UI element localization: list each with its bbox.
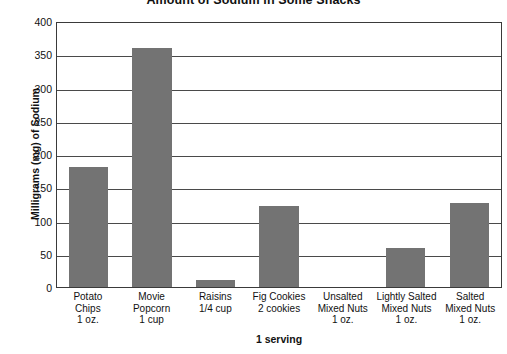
x-tick-line: Chips [57, 303, 119, 315]
x-tick-line: 2 cookies [248, 303, 310, 315]
y-axis-tick-labels: 400350300250200150100500 [0, 22, 52, 288]
sodium-bar-chart: Amount of Sodium in Some Snacks Milligra… [0, 0, 507, 354]
y-tick-label: 250 [6, 116, 52, 128]
y-tick-label: 0 [6, 282, 52, 294]
x-tick-label: SaltedMixed Nuts1 oz. [438, 291, 502, 326]
x-tick-line: 1 oz. [57, 314, 119, 326]
chart-title: Amount of Sodium in Some Snacks [0, 0, 507, 7]
bar-slot [57, 23, 120, 287]
plot-area [56, 22, 502, 288]
bar[interactable] [259, 206, 298, 287]
x-tick-line: Lightly Salted [376, 291, 438, 303]
y-tick-label: 400 [6, 16, 52, 28]
x-tick-label: Lightly SaltedMixed Nuts1 oz. [375, 291, 439, 326]
x-tick-line: 1 cup [121, 314, 183, 326]
x-tick-label: Raisins1/4 cup [183, 291, 247, 326]
x-tick-line: Unsalted [312, 291, 374, 303]
y-tick-label: 200 [6, 149, 52, 161]
x-tick-line: Popcorn [121, 303, 183, 315]
bar[interactable] [196, 280, 235, 287]
x-tick-line: 1 oz. [439, 314, 501, 326]
bar[interactable] [450, 203, 489, 287]
bar[interactable] [69, 167, 108, 287]
bar[interactable] [386, 248, 425, 287]
bar-slot [438, 23, 501, 287]
x-tick-line: Mixed Nuts [439, 303, 501, 315]
x-tick-line: 1 oz. [376, 314, 438, 326]
x-tick-line: 1 oz. [312, 314, 374, 326]
bar-slot [184, 23, 247, 287]
x-tick-label: MoviePopcorn1 cup [120, 291, 184, 326]
x-tick-line: Salted [439, 291, 501, 303]
bar-slot [120, 23, 183, 287]
bar-series [57, 23, 501, 287]
bar-slot [247, 23, 310, 287]
y-tick-label: 100 [6, 216, 52, 228]
x-tick-label: UnsaltedMixed Nuts1 oz. [311, 291, 375, 326]
x-tick-label: Fig Cookies2 cookies [247, 291, 311, 326]
x-tick-label: PotatoChips1 oz. [56, 291, 120, 326]
x-tick-line: Potato [57, 291, 119, 303]
bar-slot [374, 23, 437, 287]
x-tick-line: Mixed Nuts [376, 303, 438, 315]
x-tick-line: Fig Cookies [248, 291, 310, 303]
bar[interactable] [132, 48, 171, 287]
x-tick-line: 1/4 cup [184, 303, 246, 315]
y-tick-label: 50 [6, 249, 52, 261]
x-tick-line: Movie [121, 291, 183, 303]
y-tick-label: 150 [6, 182, 52, 194]
x-axis-tick-labels: PotatoChips1 oz.MoviePopcorn1 cupRaisins… [56, 291, 502, 326]
bar-slot [311, 23, 374, 287]
x-tick-line: Mixed Nuts [312, 303, 374, 315]
y-tick-label: 350 [6, 49, 52, 61]
x-tick-line: Raisins [184, 291, 246, 303]
x-axis-title: 1 serving [56, 333, 502, 345]
y-tick-label: 300 [6, 83, 52, 95]
